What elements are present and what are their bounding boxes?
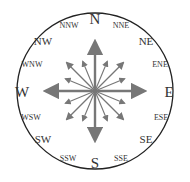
direction-arrow bbox=[95, 63, 123, 91]
label-nnw: NNW bbox=[59, 21, 78, 30]
label-se: SE bbox=[140, 133, 153, 145]
label-nne: NNE bbox=[113, 21, 129, 30]
label-wnw: WNW bbox=[22, 60, 43, 69]
direction-arrow bbox=[95, 91, 123, 119]
label-s: S bbox=[91, 155, 99, 172]
direction-arrow bbox=[67, 63, 95, 91]
label-wsw: WSW bbox=[21, 113, 41, 122]
label-sw: SW bbox=[35, 133, 52, 145]
label-ne: NE bbox=[139, 35, 154, 47]
label-ese: ESE bbox=[154, 113, 168, 122]
label-e: E bbox=[164, 84, 173, 101]
label-n: N bbox=[90, 11, 101, 28]
label-sse: SSE bbox=[114, 154, 128, 163]
label-nw: NW bbox=[34, 35, 52, 47]
compass-rose: N S W E NE NW SE SW NNW NNE ENE ESE SSE … bbox=[0, 0, 190, 182]
label-ene: ENE bbox=[152, 60, 168, 69]
label-ssw: SSW bbox=[60, 154, 76, 163]
direction-arrow bbox=[67, 91, 95, 119]
label-w: W bbox=[15, 84, 29, 101]
